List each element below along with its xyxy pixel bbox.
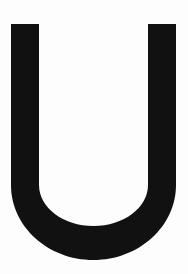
letter-u-glyph [0, 0, 188, 274]
glyph-canvas: U [0, 0, 188, 274]
